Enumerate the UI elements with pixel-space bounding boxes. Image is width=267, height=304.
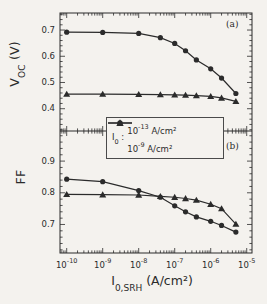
data-point-circle: [208, 66, 213, 71]
y-tick-label: 0.4: [31, 104, 55, 113]
legend-entry-1e-13: 10-13 A/cm²: [127, 121, 176, 137]
legend-entries: 10-13 A/cm² 10-9 A/cm²: [127, 121, 176, 155]
data-point-circle: [208, 219, 213, 224]
data-point-circle: [136, 31, 141, 36]
data-point-circle: [233, 229, 238, 234]
voc-sub: OC: [17, 64, 27, 78]
x-axis-label: I0,SRH (A/cm²): [111, 273, 193, 291]
data-point-circle: [172, 41, 177, 46]
data-point-circle: [183, 209, 188, 214]
ff-text: FF: [13, 170, 28, 185]
data-point-circle: [233, 91, 238, 96]
legend-title-sub: 0: [115, 138, 119, 146]
x-tick-label: 10-6: [196, 257, 226, 270]
legend-title-rest: :: [119, 132, 125, 142]
x-tick-label: 10-10: [52, 257, 82, 270]
xlabel-sub: 0,SRH: [115, 283, 142, 293]
data-point-triangle: [218, 205, 225, 211]
x-tick-label: 10-7: [160, 257, 190, 270]
legend-triangle-marker-icon: [107, 118, 133, 128]
legend-entry-1e-9: 10-9 A/cm²: [127, 139, 176, 155]
y-tick-label: 0.8: [31, 188, 55, 197]
data-point-circle: [172, 203, 177, 208]
xlabel-rest: (A/cm²): [142, 273, 193, 288]
data-point-circle: [100, 30, 105, 35]
y-axis-label-ff: FF: [13, 170, 28, 185]
data-point-circle: [64, 30, 69, 35]
data-point-circle: [183, 48, 188, 53]
voc-main: V: [7, 78, 22, 87]
data-point-circle: [158, 35, 163, 40]
data-point-circle: [100, 179, 105, 184]
y-axis-label-voc: VOC (V): [7, 41, 25, 87]
x-tick-label: 10-5: [232, 257, 262, 270]
y-tick-label: 0.6: [31, 52, 55, 61]
voc-rest: (V): [7, 41, 22, 64]
data-point-circle: [219, 223, 224, 228]
data-point-circle: [194, 57, 199, 62]
x-tick-label: 10-8: [124, 257, 154, 270]
panel-b-label: (b): [226, 141, 239, 151]
legend-entry-label: 10-9 A/cm²: [127, 141, 172, 154]
two-panel-solar-cell-plot: 0.70.60.50.40.90.80.710-1010-910-810-710…: [0, 0, 267, 304]
y-tick-label: 0.9: [31, 157, 55, 166]
legend-box: I0 : 10-13 A/cm² 10-9 A/cm²: [106, 117, 224, 159]
y-tick-label: 0.7: [31, 26, 55, 35]
data-point-circle: [219, 75, 224, 80]
series-line-circle: [67, 32, 236, 93]
panel-a-label: (a): [226, 19, 238, 29]
legend-title: I0 :: [112, 132, 124, 145]
y-tick-label: 0.5: [31, 78, 55, 87]
data-point-circle: [194, 214, 199, 219]
y-tick-label: 0.7: [31, 220, 55, 229]
data-point-circle: [64, 177, 69, 182]
legend-entry-label: 10-13 A/cm²: [127, 123, 176, 136]
x-tick-label: 10-9: [88, 257, 118, 270]
